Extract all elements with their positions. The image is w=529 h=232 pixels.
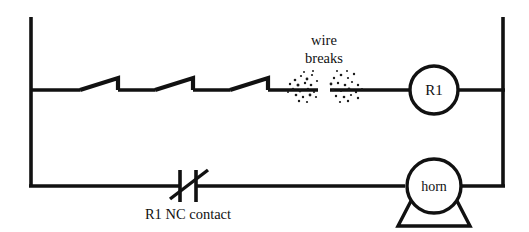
horn-label: horn [421, 179, 447, 194]
limit-switch-2[interactable] [155, 78, 193, 90]
nc-contact-label: R1 NC contact [145, 206, 231, 222]
wire-break-speckles-right [330, 70, 363, 103]
limit-switch-3-blade [230, 78, 268, 90]
circuit-canvas: wire breaks R1 R1 NC contact horn [0, 0, 529, 232]
limit-switch-1-blade [80, 78, 118, 90]
wire-break-speckles-left [287, 70, 318, 103]
wire-breaks-label-line2: breaks [305, 50, 343, 66]
circuit-diagram: wire breaks R1 R1 NC contact horn [0, 0, 529, 232]
limit-switch-3[interactable] [230, 78, 268, 90]
limit-switch-2-blade [155, 78, 193, 90]
relay-coil-label: R1 [425, 82, 443, 98]
limit-switch-1[interactable] [80, 78, 118, 90]
relay-coil-R1[interactable]: R1 [410, 66, 458, 114]
horn-device[interactable]: horn [398, 159, 470, 226]
wire-breaks-label-line1: wire [311, 32, 337, 48]
